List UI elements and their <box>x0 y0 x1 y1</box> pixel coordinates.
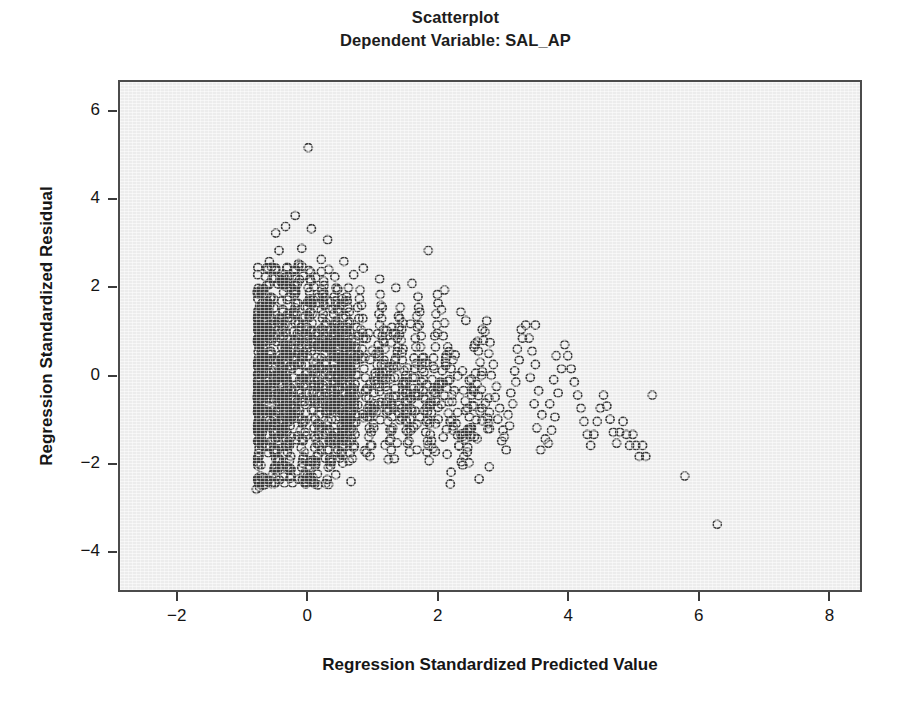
y-axis-label: Regression Standardized Residual <box>37 66 57 586</box>
x-tick-label: 2 <box>416 606 460 626</box>
y-tick-mark <box>108 198 117 200</box>
x-tick-label: 4 <box>546 606 590 626</box>
y-tick-label: 0 <box>52 365 100 385</box>
x-tick-mark <box>828 592 830 601</box>
scatterplot-figure: Scatterplot Dependent Variable: SAL_AP R… <box>0 0 911 709</box>
x-tick-mark <box>698 592 700 601</box>
x-tick-label: 6 <box>677 606 721 626</box>
y-tick-label: −4 <box>52 541 100 561</box>
chart-subtitle: Dependent Variable: SAL_AP <box>0 29 911 52</box>
y-tick-label: −2 <box>52 453 100 473</box>
x-tick-mark <box>567 592 569 601</box>
x-tick-label: 8 <box>807 606 851 626</box>
plot-area <box>118 80 862 592</box>
x-tick-label: −2 <box>155 606 199 626</box>
chart-title: Scatterplot <box>0 6 911 29</box>
x-tick-label: 0 <box>285 606 329 626</box>
y-tick-label: 2 <box>52 276 100 296</box>
y-tick-mark <box>108 375 117 377</box>
y-tick-mark <box>108 463 117 465</box>
scatter-points-layer <box>120 82 860 590</box>
y-tick-mark <box>108 286 117 288</box>
x-axis-label: Regression Standardized Predicted Value <box>118 655 862 675</box>
x-tick-mark <box>176 592 178 601</box>
y-tick-label: 4 <box>52 188 100 208</box>
x-tick-mark <box>437 592 439 601</box>
y-tick-mark <box>108 551 117 553</box>
y-tick-mark <box>108 110 117 112</box>
x-tick-mark <box>306 592 308 601</box>
y-tick-label: 6 <box>52 100 100 120</box>
chart-titles: Scatterplot Dependent Variable: SAL_AP <box>0 6 911 53</box>
